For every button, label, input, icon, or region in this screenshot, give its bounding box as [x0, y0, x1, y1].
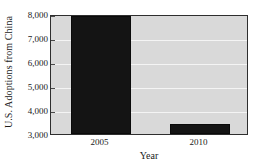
y-axis-tick-label: 8,000	[16, 11, 48, 20]
plot-area	[50, 15, 248, 135]
y-axis-tick-label: 7,000	[16, 35, 48, 44]
y-axis-tick	[51, 16, 55, 17]
y-axis-tick	[51, 112, 55, 113]
y-axis-title-text: U.S. Adoptions from China	[4, 15, 14, 127]
y-axis-tick-labels: 3,0004,0005,0006,0007,0008,000	[16, 15, 48, 135]
x-axis-tick-labels: 20052010	[50, 137, 248, 150]
y-axis-tick-label: 5,000	[16, 83, 48, 92]
bar	[170, 124, 230, 134]
x-axis-title: Year	[50, 150, 248, 162]
y-axis-tick-label: 6,000	[16, 59, 48, 68]
bar-chart-figure: U.S. Adoptions from China 3,0004,0005,00…	[0, 0, 258, 168]
y-axis-tick	[51, 40, 55, 41]
bar	[71, 16, 131, 134]
y-axis-tick	[51, 64, 55, 65]
x-axis-tick-label: 2010	[190, 137, 208, 148]
x-axis-tick-label: 2005	[91, 137, 109, 148]
y-axis-tick	[51, 88, 55, 89]
y-axis-tick-label: 4,000	[16, 107, 48, 116]
y-axis-tick-label: 3,000	[16, 131, 48, 140]
